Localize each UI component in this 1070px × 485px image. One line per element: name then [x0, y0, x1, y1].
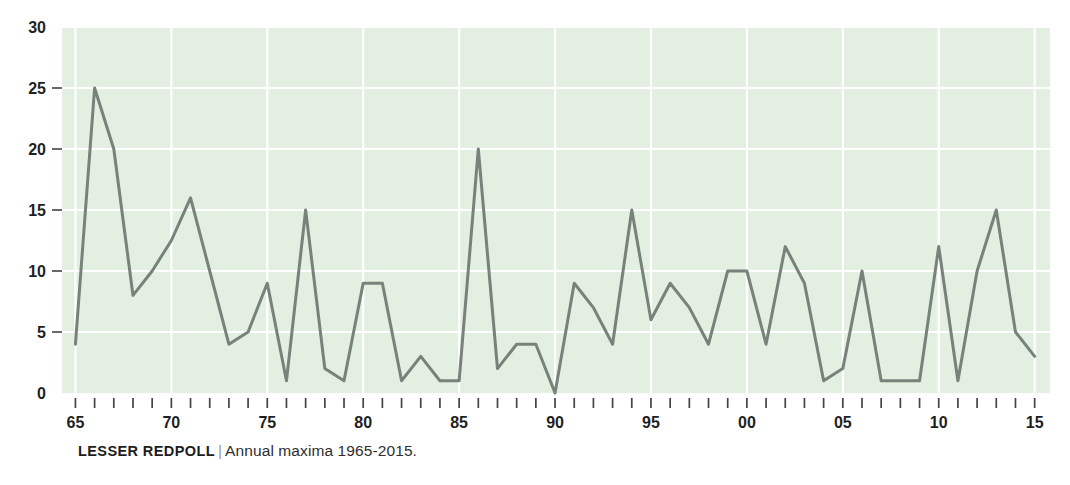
- x-tick-label: 10: [930, 414, 948, 431]
- caption-series-name: LESSER REDPOLL: [78, 443, 215, 459]
- line-chart: 0510152025306570758085909500051015: [0, 0, 1070, 485]
- chart-figure: 0510152025306570758085909500051015 LESSE…: [0, 0, 1070, 485]
- x-axis: 6570758085909500051015: [67, 398, 1044, 431]
- y-tick-label: 10: [28, 263, 46, 280]
- y-tick-label: 20: [28, 141, 46, 158]
- y-tick-label: 15: [28, 202, 46, 219]
- caption-description: Annual maxima 1965-2015.: [225, 442, 417, 459]
- x-tick-label: 95: [642, 414, 660, 431]
- caption-separator: |: [215, 442, 225, 459]
- x-tick-label: 05: [834, 414, 852, 431]
- x-tick-label: 70: [162, 414, 180, 431]
- y-tick-label: 5: [37, 324, 46, 341]
- y-tick-label: 0: [37, 385, 46, 402]
- y-axis: 051015202530: [28, 19, 62, 402]
- y-tick-label: 30: [28, 19, 46, 36]
- x-tick-label: 15: [1026, 414, 1044, 431]
- chart-caption: LESSER REDPOLL|Annual maxima 1965-2015.: [78, 442, 417, 460]
- x-tick-label: 85: [450, 414, 468, 431]
- x-tick-label: 75: [258, 414, 276, 431]
- x-tick-label: 65: [67, 414, 85, 431]
- x-tick-label: 80: [354, 414, 372, 431]
- x-tick-label: 90: [546, 414, 564, 431]
- y-tick-label: 25: [28, 80, 46, 97]
- x-tick-label: 00: [738, 414, 756, 431]
